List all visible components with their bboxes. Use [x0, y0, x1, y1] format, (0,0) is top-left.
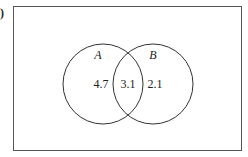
region-intersection-value: 3.1	[121, 77, 136, 91]
set-a-label: A	[93, 48, 102, 62]
set-b-label: B	[149, 48, 157, 62]
region-b-only-value: 2.1	[148, 77, 163, 91]
venn-diagram: A B 4.7 3.1 2.1	[0, 0, 248, 157]
region-a-only-value: 4.7	[94, 77, 109, 91]
